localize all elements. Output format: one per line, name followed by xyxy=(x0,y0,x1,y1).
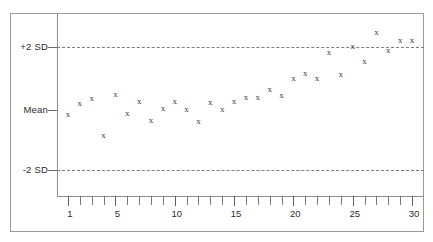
x-axis-label-1: 1 xyxy=(67,208,72,219)
data-point: x xyxy=(184,105,189,114)
data-point: x xyxy=(256,93,261,102)
y-axis-label-minus-2sd: -2 SD xyxy=(14,164,48,175)
y-axis-label-plus-2sd: +2 SD xyxy=(14,41,48,52)
data-point: x xyxy=(398,36,403,45)
data-point: x xyxy=(315,73,320,82)
x-axis-tick-23 xyxy=(329,196,330,205)
x-axis-tick-16 xyxy=(246,196,247,205)
x-axis-tick-14 xyxy=(222,196,223,205)
figure-frame xyxy=(10,13,424,232)
x-axis-tick-28 xyxy=(388,196,389,205)
x-axis-tick-5 xyxy=(115,196,116,206)
data-point: x xyxy=(78,99,83,108)
x-axis-line xyxy=(57,196,424,197)
data-point: x xyxy=(386,45,391,54)
y-axis-tick-1 xyxy=(48,110,57,111)
data-point: x xyxy=(113,90,118,99)
x-axis-tick-11 xyxy=(187,196,188,205)
data-point: x xyxy=(303,68,308,77)
data-point: x xyxy=(362,57,367,66)
data-point: x xyxy=(220,104,225,113)
x-axis-label-30: 30 xyxy=(409,208,420,219)
data-point: x xyxy=(374,27,379,36)
x-axis-tick-27 xyxy=(376,196,377,205)
data-point: x xyxy=(279,90,284,99)
x-axis-tick-21 xyxy=(305,196,306,205)
data-point: x xyxy=(137,97,142,106)
x-axis-label-15: 15 xyxy=(231,208,242,219)
x-axis-label-10: 10 xyxy=(171,208,182,219)
y-axis-label-mean: Mean xyxy=(14,104,48,115)
x-axis-label-20: 20 xyxy=(290,208,301,219)
x-axis-tick-6 xyxy=(127,196,128,205)
control-chart: +2 SDMean-2 SD 151015202530 xxxxxxxxxxxx… xyxy=(0,0,433,242)
x-axis-tick-30 xyxy=(412,196,413,206)
x-axis-tick-12 xyxy=(198,196,199,205)
y-axis-tick-0 xyxy=(48,47,57,48)
x-axis-tick-17 xyxy=(258,196,259,205)
data-point: x xyxy=(149,116,154,125)
data-point: x xyxy=(89,94,94,103)
data-point: x xyxy=(161,104,166,113)
data-point: x xyxy=(327,47,332,56)
data-point: x xyxy=(196,117,201,126)
data-point: x xyxy=(410,36,415,45)
x-axis-tick-18 xyxy=(270,196,271,205)
y-axis-tick-2 xyxy=(48,170,57,171)
x-axis-tick-25 xyxy=(353,196,354,206)
x-axis-tick-20 xyxy=(293,196,294,206)
x-axis-tick-3 xyxy=(92,196,93,205)
x-axis-tick-2 xyxy=(80,196,81,205)
data-point: x xyxy=(208,98,213,107)
x-axis-tick-29 xyxy=(400,196,401,205)
data-point: x xyxy=(173,97,178,106)
x-axis-label-25: 25 xyxy=(349,208,360,219)
data-point: x xyxy=(350,42,355,51)
x-axis-tick-13 xyxy=(210,196,211,205)
data-point: x xyxy=(244,92,249,101)
reference-line-plus-2sd xyxy=(57,47,424,48)
x-axis-tick-1 xyxy=(68,196,69,206)
data-point: x xyxy=(66,109,71,118)
data-point: x xyxy=(291,73,296,82)
x-axis-tick-22 xyxy=(317,196,318,205)
x-axis-tick-7 xyxy=(139,196,140,205)
x-axis-tick-8 xyxy=(151,196,152,205)
x-axis-label-5: 5 xyxy=(115,208,120,219)
x-axis-tick-26 xyxy=(365,196,366,205)
data-point: x xyxy=(125,109,130,118)
data-point: x xyxy=(267,84,272,93)
x-axis-tick-9 xyxy=(163,196,164,205)
x-axis-tick-24 xyxy=(341,196,342,205)
data-point: x xyxy=(339,69,344,78)
x-axis-tick-19 xyxy=(282,196,283,205)
x-axis-tick-10 xyxy=(175,196,176,206)
x-axis-tick-4 xyxy=(104,196,105,205)
data-point: x xyxy=(101,130,106,139)
x-axis-tick-15 xyxy=(234,196,235,206)
reference-line-minus-2sd xyxy=(57,170,424,171)
data-point: x xyxy=(232,97,237,106)
